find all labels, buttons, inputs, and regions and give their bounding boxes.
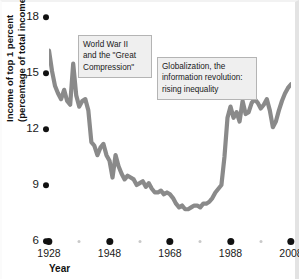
annotation-glob-line2: information revolution: bbox=[162, 72, 252, 83]
y-axis-title: Income of top 1 percent (percentage of t… bbox=[4, 0, 28, 122]
x-tick-2008: 2008 bbox=[279, 238, 299, 259]
x-tick-1948: 1948 bbox=[98, 238, 121, 259]
x-tick-label-1988: 1988 bbox=[219, 248, 242, 259]
annotation-globalization: Globalization, the information revolutio… bbox=[157, 57, 257, 100]
annotation-world-war-ii: World War II and the "Great Compression" bbox=[78, 35, 152, 78]
x-tick-label-1948: 1948 bbox=[98, 248, 121, 259]
y-tick-label-6: 6 bbox=[33, 235, 39, 247]
y-tick-label-18: 18 bbox=[26, 11, 39, 23]
annotation-glob-line1: Globalization, the bbox=[162, 61, 252, 72]
y-axis-title-line2: (percentage of total income) bbox=[16, 0, 28, 122]
x-tick-label-2008: 2008 bbox=[279, 248, 299, 259]
annotation-ww2-line3: Compression" bbox=[83, 62, 147, 73]
y-tick-9: 9 bbox=[2, 179, 49, 191]
x-tick-1968: 1968 bbox=[158, 238, 181, 259]
y-tick-12: 12 bbox=[2, 123, 49, 135]
y-tick-label-9: 9 bbox=[33, 179, 39, 191]
y-tick-label-12: 12 bbox=[26, 123, 39, 135]
annotation-glob-line3: rising inequality bbox=[162, 84, 252, 95]
chart-figure: 69121518 Income of top 1 percent (percen… bbox=[0, 0, 299, 279]
y-tick-6: 6 bbox=[2, 235, 49, 247]
x-tick-label-1968: 1968 bbox=[158, 248, 181, 259]
x-tick-1988: 1988 bbox=[219, 238, 242, 259]
annotation-ww2-line1: World War II bbox=[83, 39, 147, 50]
annotation-ww2-line2: and the "Great bbox=[83, 50, 147, 61]
x-axis-title: Year bbox=[49, 264, 70, 274]
y-tick-label-15: 15 bbox=[26, 67, 39, 79]
y-axis-title-line1: Income of top 1 percent bbox=[4, 0, 16, 122]
